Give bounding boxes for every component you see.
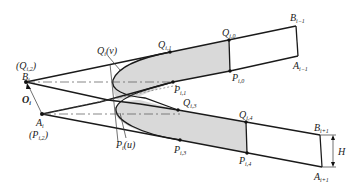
- label-Qi4: Qi,4: [239, 109, 252, 121]
- label-Oi: Oi: [22, 94, 31, 106]
- label-Qi1: Qi,1: [158, 39, 171, 51]
- label-Qi3: Qi,3: [183, 97, 196, 109]
- Oi-vector: [29, 87, 42, 114]
- label-Pi0: Pi,0: [231, 72, 244, 84]
- point-Qi3: [176, 108, 179, 111]
- edge-Bip1-Aip1: [320, 135, 322, 167]
- corner-transition-diagram: (Qi,2) Bi Oi Ai (Pi,2) Qi(v) Pi(u) Qi,1 …: [0, 0, 360, 191]
- label-Ai: Ai: [35, 117, 44, 129]
- label-Pi4: Pi,4: [238, 155, 251, 167]
- H-arrow-down-icon: [331, 162, 335, 167]
- label-Qi-v: Qi(v): [97, 45, 118, 57]
- label-H: H: [337, 146, 346, 157]
- point-Pi3: [178, 138, 181, 141]
- point-Pi4: [245, 151, 248, 154]
- label-Pi2: (Pi,2): [29, 129, 49, 141]
- upper-right-edge: [230, 56, 298, 71]
- label-Aim1: Ai−1: [292, 60, 308, 72]
- label-Bi: Bi: [22, 71, 30, 83]
- edge-Bim1-Aim1: [296, 26, 298, 56]
- H-arrow-up-icon: [331, 135, 335, 140]
- label-Pi-u: Pi(u): [115, 139, 136, 151]
- label-Pi3: Pi,3: [173, 144, 186, 156]
- label-Pi1: Pi,1: [173, 84, 186, 96]
- label-Bim1: Bi−1: [290, 12, 305, 24]
- label-Qi0: Qi,0: [222, 27, 235, 39]
- label-Bip1: Bi+1: [314, 122, 329, 134]
- Oi-arrowhead-icon: [26, 83, 31, 89]
- label-Aip1: Ai+1: [313, 171, 329, 183]
- point-Ai: [40, 112, 44, 116]
